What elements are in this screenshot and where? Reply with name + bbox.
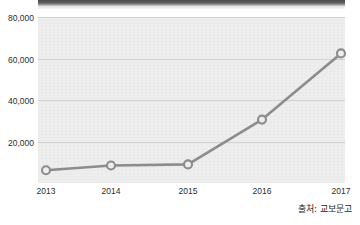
x-tick-label-2017: 2017 (332, 186, 351, 196)
x-tick-label-2014: 2014 (102, 186, 121, 196)
chart-figure: 80,000 60,000 40,000 20,000 2013 2014 20… (0, 0, 360, 225)
x-tick-label-2015: 2015 (179, 186, 198, 196)
source-note: 출처: 교보문고 (298, 202, 352, 215)
x-axis-tick-labels: 2013 2014 2015 2016 2017 (0, 0, 360, 225)
x-tick-label-2013: 2013 (37, 186, 56, 196)
x-tick-label-2016: 2016 (253, 186, 272, 196)
